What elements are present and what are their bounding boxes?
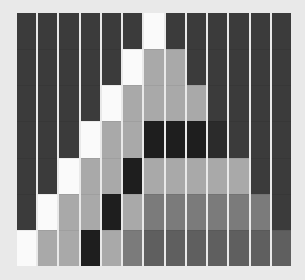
grid-cell-r2-c0 — [17, 85, 36, 121]
grid-cell-r1-c0 — [17, 49, 36, 85]
grid-cell-r0-c7 — [166, 13, 185, 49]
grid-cell-r4-c0 — [17, 158, 36, 194]
grid-cell-r6-c1 — [38, 230, 57, 266]
grid-cell-r2-c2 — [59, 85, 78, 121]
grid-cell-r1-c9 — [208, 49, 227, 85]
grid-cell-r5-c11 — [251, 194, 270, 230]
grid-cell-r6-c2 — [59, 230, 78, 266]
grid-cell-r2-c3 — [81, 85, 100, 121]
tile-grid — [17, 13, 291, 266]
grid-cell-r3-c1 — [38, 121, 57, 157]
grid-cell-r0-c0 — [17, 13, 36, 49]
grid-cell-r3-c8 — [187, 121, 206, 157]
grid-cell-r1-c2 — [59, 49, 78, 85]
grid-cell-r6-c8 — [187, 230, 206, 266]
grid-cell-r2-c12 — [272, 85, 291, 121]
grid-cell-r3-c7 — [166, 121, 185, 157]
grid-cell-r6-c5 — [123, 230, 142, 266]
grid-cell-r2-c1 — [38, 85, 57, 121]
grid-cell-r5-c12 — [272, 194, 291, 230]
grid-cell-r4-c12 — [272, 158, 291, 194]
grid-cell-r5-c4 — [102, 194, 121, 230]
grid-cell-r2-c9 — [208, 85, 227, 121]
grid-cell-r4-c3 — [81, 158, 100, 194]
grid-cell-r6-c9 — [208, 230, 227, 266]
grid-cell-r5-c5 — [123, 194, 142, 230]
grid-cell-r6-c11 — [251, 230, 270, 266]
grid-cell-r2-c5 — [123, 85, 142, 121]
grid-cell-r4-c2 — [59, 158, 78, 194]
grid-cell-r5-c6 — [144, 194, 163, 230]
grid-cell-r3-c2 — [59, 121, 78, 157]
grid-cell-r2-c11 — [251, 85, 270, 121]
grid-cell-r0-c4 — [102, 13, 121, 49]
grid-cell-r6-c10 — [229, 230, 248, 266]
grid-cell-r1-c8 — [187, 49, 206, 85]
grid-cell-r5-c7 — [166, 194, 185, 230]
grid-cell-r4-c4 — [102, 158, 121, 194]
grid-cell-r1-c1 — [38, 49, 57, 85]
grid-cell-r2-c10 — [229, 85, 248, 121]
grid-cell-r6-c6 — [144, 230, 163, 266]
grid-cell-r5-c2 — [59, 194, 78, 230]
grid-cell-r2-c7 — [166, 85, 185, 121]
grid-cell-r0-c8 — [187, 13, 206, 49]
grid-cell-r2-c8 — [187, 85, 206, 121]
grid-cell-r6-c12 — [272, 230, 291, 266]
grid-cell-r3-c10 — [229, 121, 248, 157]
grid-cell-r3-c9 — [208, 121, 227, 157]
grid-cell-r5-c1 — [38, 194, 57, 230]
grid-cell-r0-c5 — [123, 13, 142, 49]
grid-cell-r0-c11 — [251, 13, 270, 49]
grid-cell-r4-c8 — [187, 158, 206, 194]
grid-cell-r2-c4 — [102, 85, 121, 121]
grid-cell-r5-c10 — [229, 194, 248, 230]
grid-cell-r5-c0 — [17, 194, 36, 230]
grid-cell-r0-c1 — [38, 13, 57, 49]
grid-cell-r1-c10 — [229, 49, 248, 85]
grid-cell-r6-c7 — [166, 230, 185, 266]
grid-cell-r4-c1 — [38, 158, 57, 194]
grid-cell-r1-c6 — [144, 49, 163, 85]
grid-cell-r3-c11 — [251, 121, 270, 157]
grid-cell-r1-c11 — [251, 49, 270, 85]
grid-cell-r0-c2 — [59, 13, 78, 49]
grid-cell-r3-c4 — [102, 121, 121, 157]
grid-cell-r4-c11 — [251, 158, 270, 194]
grid-cell-r5-c3 — [81, 194, 100, 230]
grid-cell-r2-c6 — [144, 85, 163, 121]
grid-cell-r0-c10 — [229, 13, 248, 49]
grid-cell-r6-c0 — [17, 230, 36, 266]
grid-cell-r1-c4 — [102, 49, 121, 85]
grid-cell-r3-c12 — [272, 121, 291, 157]
grid-cell-r3-c6 — [144, 121, 163, 157]
grid-cell-r4-c7 — [166, 158, 185, 194]
grid-cell-r1-c12 — [272, 49, 291, 85]
grid-cell-r0-c3 — [81, 13, 100, 49]
grid-cell-r6-c4 — [102, 230, 121, 266]
grid-cell-r0-c12 — [272, 13, 291, 49]
grid-cell-r4-c9 — [208, 158, 227, 194]
grid-cell-r5-c9 — [208, 194, 227, 230]
grid-cell-r3-c5 — [123, 121, 142, 157]
grid-cell-r4-c6 — [144, 158, 163, 194]
grid-cell-r4-c10 — [229, 158, 248, 194]
grid-cell-r1-c5 — [123, 49, 142, 85]
grid-cell-r0-c6 — [144, 13, 163, 49]
grid-cell-r3-c3 — [81, 121, 100, 157]
grid-cell-r3-c0 — [17, 121, 36, 157]
grid-cell-r1-c7 — [166, 49, 185, 85]
grid-cell-r4-c5 — [123, 158, 142, 194]
grid-cell-r6-c3 — [81, 230, 100, 266]
grid-cell-r0-c9 — [208, 13, 227, 49]
grid-cell-r1-c3 — [81, 49, 100, 85]
grid-cell-r5-c8 — [187, 194, 206, 230]
